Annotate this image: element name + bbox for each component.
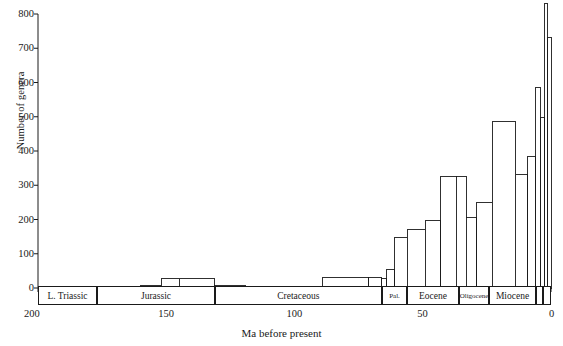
bar bbox=[456, 177, 466, 288]
epoch-cell-unlabeled bbox=[543, 286, 551, 305]
bar bbox=[492, 121, 515, 288]
bar bbox=[528, 156, 536, 288]
y-tick-label: 0 bbox=[0, 283, 34, 293]
bar bbox=[545, 4, 548, 288]
epoch-label: Oligocene bbox=[460, 291, 489, 301]
bar-rect bbox=[441, 177, 456, 288]
bar-rect bbox=[456, 177, 466, 288]
epoch-label: Eocene bbox=[419, 291, 447, 301]
y-tick-label: 500 bbox=[0, 112, 34, 122]
x-tick-label: 150 bbox=[158, 309, 174, 319]
bar bbox=[548, 38, 551, 288]
bar bbox=[441, 177, 456, 288]
chart-figure: Number of genera 01002003004005006007008… bbox=[0, 0, 563, 346]
y-tick-marks bbox=[34, 14, 38, 288]
bar-rect bbox=[528, 156, 536, 288]
bar-series bbox=[38, 4, 551, 288]
bar-rect bbox=[466, 218, 476, 288]
y-tick-label: 300 bbox=[0, 180, 34, 190]
epoch-cell-cretaceous: Cretaceous bbox=[215, 286, 382, 305]
y-tick-label: 600 bbox=[0, 78, 34, 88]
bar-rect bbox=[477, 202, 492, 288]
bar bbox=[466, 218, 476, 288]
epoch-label: Pal. bbox=[389, 291, 400, 301]
bar bbox=[395, 237, 408, 288]
epoch-cell-miocene: Miocene bbox=[489, 286, 535, 305]
bar-rect bbox=[395, 237, 408, 288]
bar-rect bbox=[492, 121, 515, 288]
epoch-label: Miocene bbox=[496, 291, 529, 301]
bar bbox=[425, 220, 440, 288]
x-axis-title: Ma before present bbox=[0, 327, 563, 339]
bar-rect bbox=[541, 117, 545, 288]
bar-rect bbox=[545, 4, 548, 288]
epoch-cell-eocene: Eocene bbox=[407, 286, 458, 305]
bar bbox=[541, 117, 545, 288]
y-tick-label: 800 bbox=[0, 9, 34, 19]
bar-rect bbox=[548, 38, 551, 288]
epoch-label: Jurassic bbox=[141, 291, 171, 301]
bar-rect bbox=[425, 220, 440, 288]
y-tick-label: 700 bbox=[0, 43, 34, 53]
y-tick-label: 200 bbox=[0, 215, 34, 225]
bar bbox=[515, 174, 528, 288]
bar bbox=[477, 202, 492, 288]
bar-rect bbox=[515, 174, 528, 288]
y-tick-label: 400 bbox=[0, 146, 34, 156]
epoch-cell-oligocene: Oligocene bbox=[459, 286, 490, 305]
epoch-cell-jurassic: Jurassic bbox=[97, 286, 215, 305]
bar-rect bbox=[536, 88, 541, 288]
epoch-cell-pal: Pal. bbox=[382, 286, 408, 305]
x-tick-label: 100 bbox=[287, 309, 303, 319]
epoch-cell-l-triassic: L. Triassic bbox=[38, 286, 97, 305]
x-tick-label: 0 bbox=[549, 309, 554, 319]
x-tick-label: 50 bbox=[417, 309, 428, 319]
epoch-cell-unlabeled bbox=[536, 286, 544, 305]
bar-rect bbox=[407, 230, 425, 288]
bar bbox=[536, 88, 541, 288]
y-tick-label: 100 bbox=[0, 249, 34, 259]
epoch-label: Cretaceous bbox=[277, 291, 319, 301]
bar bbox=[407, 230, 425, 288]
epoch-label: L. Triassic bbox=[47, 291, 87, 301]
x-tick-label: 200 bbox=[24, 309, 40, 319]
